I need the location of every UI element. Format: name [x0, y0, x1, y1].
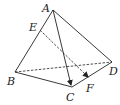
label-e: E — [29, 22, 37, 33]
edge-ab — [15, 10, 53, 72]
edge-bc — [15, 72, 72, 87]
vector-ac — [53, 10, 71, 85]
label-f: F — [86, 83, 94, 94]
label-b: B — [7, 76, 15, 87]
vector-ef — [40, 30, 88, 77]
tetrahedron-diagram: A E B C D F — [0, 0, 120, 105]
label-a: A — [42, 3, 50, 14]
label-d: D — [109, 66, 118, 77]
label-c: C — [66, 92, 74, 103]
edge-ad — [53, 10, 112, 62]
edge-bd-hidden — [15, 62, 112, 72]
diagram-lines — [0, 0, 120, 105]
